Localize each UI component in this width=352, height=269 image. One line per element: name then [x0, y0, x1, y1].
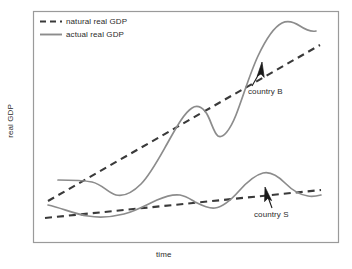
y-axis-label: real GDP [7, 91, 15, 151]
x-axis-label: time [156, 251, 172, 259]
annotation-label-country-b: country B [248, 88, 283, 96]
legend-label-actual: actual real GDP [66, 31, 124, 39]
annotation-label-country-s: country S [254, 211, 289, 219]
legend-label-natural: natural real GDP [66, 18, 127, 26]
chart-canvas [0, 0, 352, 269]
plot-frame [34, 12, 339, 243]
chart-figure: natural real GDP actual real GDP country… [0, 0, 352, 269]
